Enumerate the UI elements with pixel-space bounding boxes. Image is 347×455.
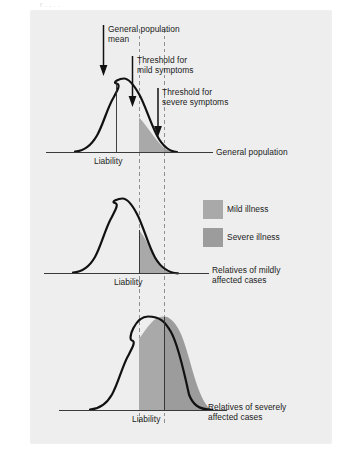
shaded-area-mild-3 — [139, 317, 164, 411]
panel-label-relatives-mildly-affected: Relatives of mildly affected cases — [212, 266, 280, 285]
axis-label-liability-3: Liability — [132, 415, 160, 425]
panel-relatives-mildly-affected — [44, 199, 209, 274]
panel-label-general-population: General population — [216, 148, 288, 158]
legend-swatches — [203, 200, 223, 247]
arrow-general-population-mean — [100, 25, 108, 76]
annotation-threshold-severe: Threshold for severe symptoms — [162, 88, 228, 107]
legend-label-severe-illness: Severe illness — [227, 233, 280, 243]
axis-label-liability-1: Liability — [94, 157, 122, 167]
panel-label-relatives-severely-affected: Relatives of severely affected cases — [208, 403, 286, 422]
legend-label-mild-illness: Mild illness — [227, 205, 269, 215]
panel-relatives-severely-affected — [59, 317, 227, 411]
curve-relatives-mildly-affected — [73, 199, 178, 274]
legend-swatch-severe — [203, 228, 223, 247]
legend-swatch-mild — [203, 200, 223, 219]
annotation-general-population-mean: General population mean — [108, 25, 180, 44]
annotation-threshold-mild: Threshold for mild symptoms — [137, 56, 194, 75]
figure-panel: General population mean Threshold for mi… — [31, 11, 331, 443]
figure-root: r . . . . — [0, 0, 347, 455]
figure-graphic — [31, 11, 331, 443]
axis-label-liability-2: Liability — [114, 278, 142, 288]
cropped-header-sliver: r . . . . — [40, 0, 310, 9]
